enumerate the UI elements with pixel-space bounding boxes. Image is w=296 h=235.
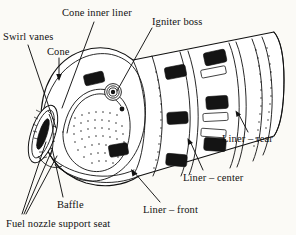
label-liner-front: Liner – front [143, 205, 198, 216]
label-liner-rear: Liner – rear [222, 134, 273, 145]
leader-fuel-nozzle-3 [26, 156, 57, 214]
dome-stud [120, 107, 125, 112]
combustor-body [41, 32, 284, 186]
combustor-diagram: Swirl vanes Cone Cone inner liner Ignite… [0, 0, 296, 235]
igniter-boss [105, 84, 122, 101]
label-liner-center: Liner – center [183, 173, 243, 184]
label-baffle: Baffle [57, 200, 84, 211]
label-cone-inner-liner: Cone inner liner [62, 8, 132, 19]
leader-liner-front [134, 172, 160, 202]
hull-outline [41, 32, 284, 186]
label-fuel-nozzle-support-seat: Fuel nozzle support seat [6, 219, 110, 230]
label-swirl-vanes: Swirl vanes [3, 32, 53, 43]
label-igniter-boss: Igniter boss [152, 17, 203, 28]
label-cone: Cone [47, 47, 70, 58]
